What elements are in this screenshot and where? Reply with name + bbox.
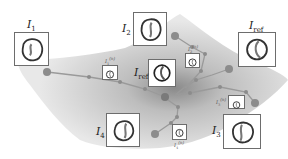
cell-image-icon [107, 114, 139, 146]
label-i2: I2 [122, 23, 131, 37]
label-i1: I1 [27, 19, 36, 33]
image-frame-iref-center [148, 59, 176, 87]
label-i1-n: I1(n) [105, 57, 115, 66]
image-frame-i3-n [228, 95, 245, 109]
cell-image-icon [239, 33, 275, 66]
image-frame-i4-n [172, 124, 187, 140]
cell-image-icon [134, 13, 166, 45]
manifold-diagram: I1 I2 Iref Iref I3 I4 I1(n) I2(n) I3(n) … [0, 0, 288, 159]
image-frame-iref-right [238, 32, 276, 67]
image-frame-i3 [223, 114, 261, 149]
image-frame-i2 [133, 12, 167, 46]
label-i4-n: I4(n) [174, 141, 184, 150]
label-i3: I3 [212, 125, 221, 139]
label-i3-n: I3(n) [216, 98, 226, 107]
cell-image-icon [15, 33, 48, 65]
cell-image-icon [229, 99, 244, 111]
image-frame-i4 [106, 113, 140, 147]
label-i2-n: I2(n) [188, 45, 198, 54]
label-iref-center: Iref [134, 67, 148, 81]
label-iref-right: Iref [249, 20, 263, 34]
cell-image-icon [173, 126, 186, 140]
image-frame-i1-n [102, 65, 118, 80]
image-frame-i1 [14, 32, 49, 66]
cell-image-icon [103, 68, 117, 81]
cell-image-icon [224, 115, 260, 148]
cell-image-icon [149, 60, 175, 86]
label-i4: I4 [96, 126, 105, 140]
image-frame-i2-n [185, 53, 200, 68]
cell-image-icon [186, 56, 199, 69]
